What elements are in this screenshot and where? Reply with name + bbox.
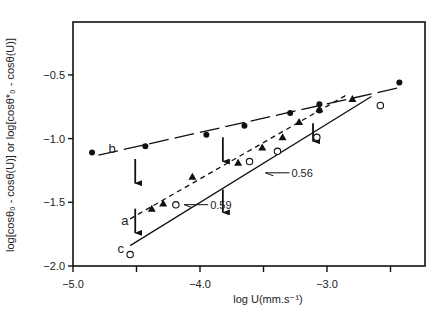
slope-label: 0.59	[210, 199, 231, 211]
fit-line-c	[130, 97, 371, 246]
open-circle-marker	[173, 202, 179, 208]
axis-ticks: −5.0−4.0−3.0−2.0−1.5−1.0−0.5	[43, 69, 390, 290]
filled-triangle-marker	[188, 173, 196, 180]
filled-triangle-marker	[159, 200, 167, 207]
open-circle-marker	[127, 251, 133, 257]
open-circle-marker	[314, 134, 320, 140]
filled-circle-marker	[203, 132, 209, 138]
open-circle-marker	[246, 158, 252, 164]
filled-circle-marker	[142, 143, 148, 149]
filled-circle-marker	[316, 101, 322, 107]
filled-triangle-marker	[348, 95, 356, 102]
filled-triangle-marker	[295, 118, 303, 125]
series-label-b: b	[109, 141, 116, 156]
plot-border	[73, 22, 425, 266]
filled-circle-marker	[287, 110, 293, 116]
filled-circle-marker	[396, 80, 402, 86]
x-tick-label: −4.0	[189, 278, 211, 290]
filled-triangle-marker	[234, 159, 242, 166]
filled-circle-marker	[89, 150, 95, 156]
fit-line-a	[130, 95, 346, 219]
y-tick-label: −1.0	[43, 133, 65, 145]
x-tick-label: −3.0	[316, 278, 338, 290]
series-label-a: a	[121, 213, 129, 228]
shift-arrows	[135, 123, 313, 233]
filled-triangle-marker	[279, 133, 287, 140]
series-label-c: c	[117, 241, 124, 256]
filled-triangle-marker	[258, 144, 266, 151]
y-tick-label: −2.0	[43, 260, 65, 272]
open-circle-marker	[377, 102, 383, 108]
open-circle-marker	[274, 148, 280, 154]
fit-lines	[98, 88, 399, 246]
plot-frame	[73, 22, 425, 266]
y-tick-label: −1.5	[43, 196, 65, 208]
x-axis-title: log U(mm.s⁻¹)	[233, 293, 303, 305]
y-axis-title: log[cosθ₀ - cosθ(U)] or log[cosθ*₀ - cos…	[4, 38, 16, 252]
x-tick-label: −5.0	[62, 278, 84, 290]
filled-circle-marker	[241, 123, 247, 129]
slope-label: 0.56	[291, 167, 312, 179]
filled-circle-marker	[316, 108, 322, 114]
y-tick-label: −0.5	[43, 69, 65, 81]
chart: −5.0−4.0−3.0−2.0−1.5−1.0−0.5 0.590.56abc…	[0, 0, 441, 318]
annotations: 0.590.56abc	[109, 141, 313, 257]
